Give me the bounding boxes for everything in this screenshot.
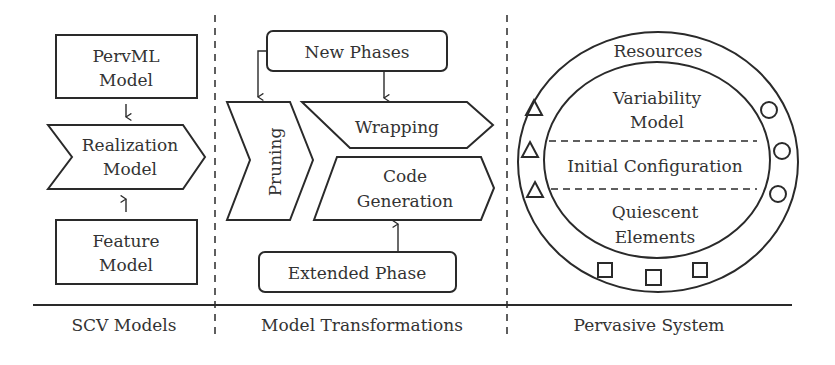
realization-model-line1: Realization [82, 135, 178, 155]
square-resource-icon [693, 263, 707, 277]
feature-model-line2: Model [99, 255, 153, 275]
wrapping-shape: Wrapping [302, 102, 493, 148]
resources-label: Resources [613, 41, 702, 61]
initial-configuration-label: Initial Configuration [567, 156, 742, 176]
pervml-model-line2: Model [99, 70, 153, 90]
diagram-canvas: PervML Model Realization Model Feature M… [0, 0, 835, 365]
code-generation-shape: Code Generation [314, 157, 494, 220]
wrapping-label: Wrapping [355, 117, 439, 137]
pruning-chevron: Pruning [227, 102, 313, 220]
square-resource-icon [646, 270, 661, 285]
realization-model-chevron: Realization Model [48, 125, 205, 189]
square-resource-icon [598, 263, 612, 277]
feature-model-line1: Feature [92, 231, 159, 251]
quiescent-elements-line2: Elements [615, 227, 696, 247]
caption-pervasive-system: Pervasive System [574, 315, 725, 335]
pruning-label: Pruning [265, 128, 285, 197]
arrow-new-phases-to-pruning [258, 51, 267, 97]
variability-model-line2: Model [630, 112, 684, 132]
caption-scv-models: SCV Models [71, 315, 176, 335]
code-generation-line2: Generation [357, 191, 453, 211]
realization-model-line2: Model [103, 159, 157, 179]
variability-model-line1: Variability [612, 88, 702, 108]
pervasive-system-diagram: Resources Variability Model Initial Conf… [518, 32, 798, 292]
triangle-resource-icon [527, 182, 543, 197]
code-generation-line1: Code [383, 166, 427, 186]
extended-phase-box: Extended Phase [259, 252, 456, 292]
new-phases-box: New Phases [267, 31, 447, 71]
extended-phase-label: Extended Phase [288, 263, 426, 283]
feature-model-box: Feature Model [56, 220, 197, 284]
new-phases-label: New Phases [305, 42, 410, 62]
caption-model-transformations: Model Transformations [261, 315, 463, 335]
pervml-model-line1: PervML [92, 46, 159, 66]
circle-resource-icon [774, 143, 790, 159]
triangle-resource-icon [522, 142, 538, 157]
circle-resource-icon [770, 186, 786, 202]
pervml-model-box: PervML Model [56, 35, 197, 98]
circle-resource-icon [761, 102, 777, 118]
quiescent-elements-line1: Quiescent [612, 202, 699, 222]
